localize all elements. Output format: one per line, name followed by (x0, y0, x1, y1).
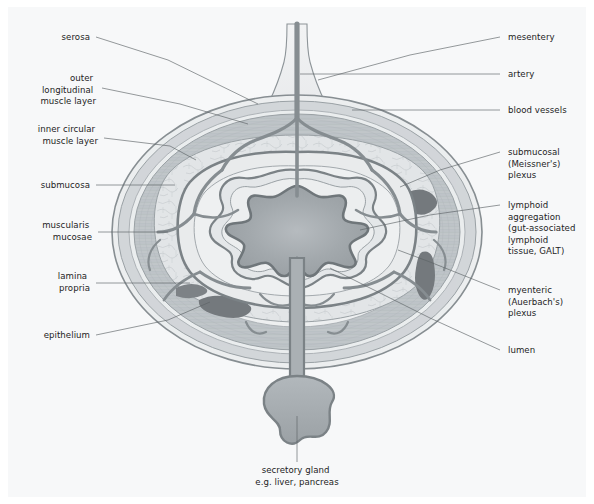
label-mesentery: mesentery (508, 32, 555, 42)
secretory-gland-body (264, 376, 334, 444)
label-serosa: serosa (62, 32, 90, 42)
gut-wall-cross-section-diagram: serosa outer longitudinal muscle layer i… (0, 0, 594, 504)
secretory-duct (290, 258, 304, 380)
label-artery: artery (508, 69, 534, 79)
leader-mesentery (318, 37, 500, 80)
figure-root: serosa outer longitudinal muscle layer i… (0, 0, 594, 504)
label-muscularis-mucosae: muscularis mucosae (42, 220, 92, 242)
label-outer-longitudinal-muscle-layer: outer longitudinal muscle layer (40, 73, 96, 106)
label-inner-circular-muscle-layer: inner circular muscle layer (38, 124, 99, 146)
label-secretory-gland: secretory gland e.g. liver, pancreas (255, 465, 339, 487)
label-submucosa: submucosa (41, 180, 90, 190)
label-lumen: lumen (508, 345, 535, 355)
label-epithelium: epithelium (44, 330, 90, 340)
label-lymphoid-aggregation: lymphoid aggregation (gut-associated lym… (508, 200, 578, 256)
label-myenteric-auerbachs-plexus: myenteric (Auerbach's) plexus (508, 285, 566, 318)
label-submucosal-meissners-plexus: submucosal (Meissner's) plexus (508, 147, 563, 180)
label-lamina-propria: lamina propria (58, 271, 90, 293)
label-blood-vessels: blood vessels (508, 105, 567, 115)
leader-serosa (96, 37, 258, 104)
